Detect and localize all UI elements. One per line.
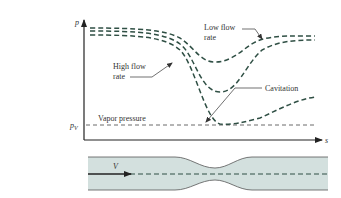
y-axis-label: p	[74, 18, 79, 27]
cavitation-label: Cavitation	[265, 84, 298, 93]
axes: p s pV	[69, 18, 328, 145]
vapor-pressure-axis-label: pV	[69, 121, 79, 131]
low-flow-label-line1: Low flow	[204, 23, 236, 32]
venturi-pipe: V	[88, 157, 328, 190]
x-axis-label: s	[325, 136, 328, 145]
pressure-distribution-diagram: p s pV Vapor pressure Low flow rate High…	[0, 0, 341, 198]
low-flow-curve	[90, 28, 315, 62]
high-flow-label-line1: High flow	[113, 62, 146, 71]
low-flow-label-line2: rate	[204, 33, 216, 42]
vapor-pressure-label: Vapor pressure	[98, 114, 146, 123]
low-flow-leader	[242, 29, 262, 39]
cavitation-leader	[206, 88, 262, 122]
high-flow-label-line2: rate	[113, 72, 125, 81]
